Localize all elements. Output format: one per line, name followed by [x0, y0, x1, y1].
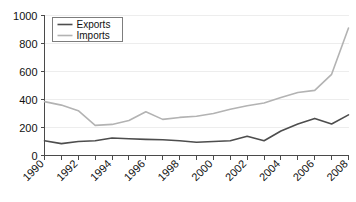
- series-line-imports: [45, 28, 349, 125]
- chart-canvas: 02004006008001000 1990199219941996199820…: [0, 0, 356, 202]
- y-axis: [41, 16, 45, 156]
- y-tick-label: 800: [19, 38, 37, 50]
- x-tick-label: 2008: [324, 157, 350, 183]
- x-axis: [45, 156, 349, 160]
- y-tick-label: 1000: [13, 10, 37, 22]
- y-tick-labels: 02004006008001000: [13, 10, 37, 162]
- x-tick-label: 1998: [155, 157, 181, 183]
- y-tick-label: 600: [19, 66, 37, 78]
- x-tick-label: 2002: [223, 157, 249, 183]
- x-tick-label: 1992: [54, 157, 80, 183]
- y-tick-label: 400: [19, 94, 37, 106]
- series-line-exports: [45, 115, 349, 144]
- x-tick-label: 2004: [257, 157, 283, 183]
- x-tick-labels: 1990199219941996199820002002200420062008: [20, 157, 350, 183]
- x-tick-label: 2000: [189, 157, 215, 183]
- x-tick-label: 1990: [20, 157, 46, 183]
- x-tick-label: 1994: [88, 157, 114, 183]
- x-tick-label: 1996: [121, 157, 147, 183]
- chart-legend: ExportsImports: [53, 18, 123, 42]
- legend-label-imports: Imports: [77, 30, 110, 41]
- x-tick-label: 2006: [290, 157, 316, 183]
- line-chart: 02004006008001000 1990199219941996199820…: [0, 0, 356, 202]
- y-tick-label: 200: [19, 122, 37, 134]
- legend-label-exports: Exports: [77, 19, 111, 30]
- series-lines: [45, 28, 349, 144]
